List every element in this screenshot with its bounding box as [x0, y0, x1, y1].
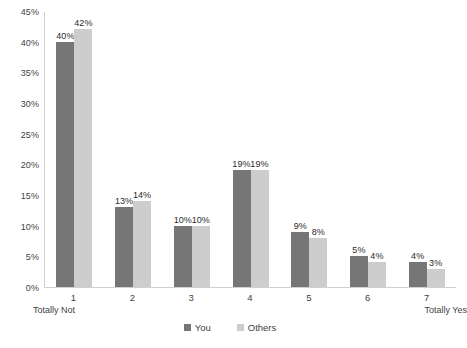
- y-tick-label: 25%: [21, 130, 39, 140]
- x-axis-cell: 2: [103, 288, 162, 318]
- bar-others[interactable]: [133, 201, 151, 287]
- bar-wrap: 3%: [427, 12, 445, 287]
- bar-group: 19%19%: [221, 12, 280, 287]
- bar-others[interactable]: [309, 238, 327, 287]
- bar-group: 10%10%: [162, 12, 221, 287]
- y-tick-label: 0%: [26, 283, 39, 293]
- x-axis: 1Totally Not234567Totally Yes: [44, 288, 456, 318]
- x-tick-label: 1: [44, 292, 103, 303]
- bar-you[interactable]: [291, 232, 309, 287]
- bar-you[interactable]: [409, 262, 427, 287]
- x-tick-label: 3: [162, 292, 221, 303]
- x-axis-cell: 3: [162, 288, 221, 318]
- legend-item[interactable]: Others: [237, 322, 277, 333]
- x-axis-cell: 6: [338, 288, 397, 318]
- bar-others[interactable]: [427, 269, 445, 287]
- bar-wrap: 40%: [56, 12, 74, 287]
- bar-wrap: 13%: [115, 12, 133, 287]
- y-tick-label: 15%: [21, 191, 39, 201]
- legend-swatch-you-icon: [184, 324, 191, 331]
- bar-value-label: 42%: [74, 18, 92, 28]
- bar-wrap: 5%: [350, 12, 368, 287]
- legend-label: Others: [248, 322, 277, 333]
- bar-others[interactable]: [74, 29, 92, 287]
- bar-value-label: 19%: [232, 159, 250, 169]
- bar-value-label: 4%: [370, 251, 383, 261]
- bar-wrap: 19%: [233, 12, 251, 287]
- x-axis-endpoint-right: Totally Yes: [424, 305, 467, 315]
- x-axis-cell: 4: [221, 288, 280, 318]
- bar-value-label: 4%: [411, 251, 424, 261]
- y-tick-label: 35%: [21, 68, 39, 78]
- y-tick-label: 20%: [21, 160, 39, 170]
- bar-group: 13%14%: [104, 12, 163, 287]
- x-axis-endpoint-left: Totally Not: [33, 305, 75, 315]
- bar-wrap: 9%: [291, 12, 309, 287]
- bar-wrap: 10%: [174, 12, 192, 287]
- y-tick-label: 5%: [26, 252, 39, 262]
- bar-wrap: 42%: [74, 12, 92, 287]
- bar-wrap: 4%: [368, 12, 386, 287]
- bar-value-label: 40%: [56, 31, 74, 41]
- x-tick-label: 6: [338, 292, 397, 303]
- bar-you[interactable]: [56, 42, 74, 287]
- bar-value-label: 14%: [133, 190, 151, 200]
- bar-value-label: 10%: [192, 215, 210, 225]
- bar-others[interactable]: [368, 262, 386, 287]
- x-tick-label: 4: [221, 292, 280, 303]
- bar-value-label: 13%: [115, 196, 133, 206]
- legend-item[interactable]: You: [184, 322, 211, 333]
- x-tick-label: 7: [397, 292, 456, 303]
- x-tick-label: 5: [279, 292, 338, 303]
- bar-group: 40%42%: [45, 12, 104, 287]
- bar-wrap: 4%: [409, 12, 427, 287]
- chart-legend: YouOthers: [0, 322, 460, 333]
- x-axis-cell: 1Totally Not: [44, 288, 103, 318]
- x-tick-label: 2: [103, 292, 162, 303]
- bar-value-label: 9%: [294, 221, 307, 231]
- y-tick-label: 45%: [21, 7, 39, 17]
- bar-value-label: 8%: [312, 227, 325, 237]
- bar-groups: 40%42%13%14%10%10%19%19%9%8%5%4%4%3%: [45, 12, 456, 287]
- plot-area: 40%42%13%14%10%10%19%19%9%8%5%4%4%3%: [44, 12, 456, 288]
- x-axis-cell: 5: [279, 288, 338, 318]
- bar-you[interactable]: [233, 170, 251, 287]
- bar-you[interactable]: [350, 256, 368, 287]
- bar-value-label: 5%: [352, 245, 365, 255]
- y-tick-label: 10%: [21, 222, 39, 232]
- bar-you[interactable]: [115, 207, 133, 287]
- bar-wrap: 19%: [251, 12, 269, 287]
- bar-group: 9%8%: [280, 12, 339, 287]
- bar-wrap: 10%: [192, 12, 210, 287]
- y-tick-label: 30%: [21, 99, 39, 109]
- bar-group: 4%3%: [397, 12, 456, 287]
- y-axis: 0%5%10%15%20%25%30%35%40%45%: [0, 0, 44, 348]
- bar-you[interactable]: [174, 226, 192, 287]
- bar-wrap: 8%: [309, 12, 327, 287]
- x-axis-cell: 7Totally Yes: [397, 288, 456, 318]
- bar-value-label: 3%: [429, 258, 442, 268]
- bar-value-label: 19%: [250, 159, 268, 169]
- legend-swatch-others-icon: [237, 324, 244, 331]
- y-tick-label: 40%: [21, 38, 39, 48]
- bar-group: 5%4%: [339, 12, 398, 287]
- bar-value-label: 10%: [174, 215, 192, 225]
- legend-label: You: [195, 322, 211, 333]
- bar-wrap: 14%: [133, 12, 151, 287]
- bar-others[interactable]: [192, 226, 210, 287]
- bar-others[interactable]: [251, 170, 269, 287]
